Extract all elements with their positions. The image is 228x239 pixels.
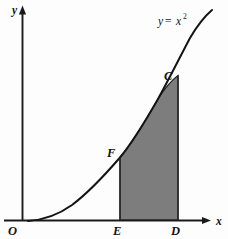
point-label-E: E (112, 224, 121, 238)
point-label-F: F (106, 146, 116, 160)
origin-label: O (8, 224, 17, 238)
point-label-C: C (164, 69, 173, 83)
figure-container: y x O E D F C y = x 2 (0, 0, 228, 239)
equation-base: x (175, 15, 182, 27)
curve-equation-label: y = x 2 (157, 12, 187, 28)
x-axis-arrow-icon (202, 217, 211, 224)
x-axis-label: x (215, 215, 222, 227)
y-axis-arrow-icon (19, 6, 26, 15)
equation-exponent: 2 (183, 12, 187, 21)
point-label-D: D (170, 224, 180, 238)
equation-lhs: y (157, 15, 164, 28)
parabola-diagram: y x O E D F C y = x 2 (0, 0, 228, 239)
y-axis-label: y (10, 4, 18, 17)
equation-equals: = (165, 15, 172, 27)
